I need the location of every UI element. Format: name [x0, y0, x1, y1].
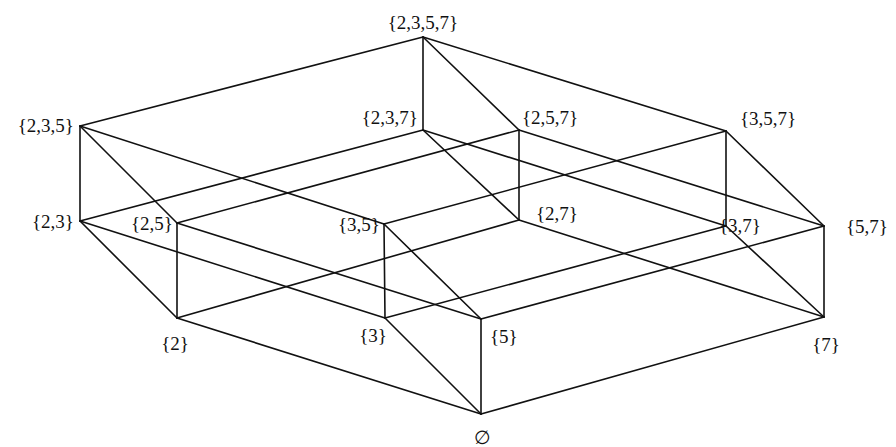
- edge-empty-2: [177, 318, 481, 414]
- edge-empty-7: [481, 317, 824, 414]
- vertex-label-2: {2}: [161, 333, 189, 354]
- vertex-label-7: {7}: [812, 334, 840, 355]
- vertex-label-57: {5,7}: [846, 216, 888, 237]
- vertex-label-2357: {2,3,5,7}: [388, 12, 459, 33]
- vertex-label-23: {2,3}: [32, 211, 74, 232]
- vertex-label-357: {3,5,7}: [740, 108, 796, 129]
- vertex-label-235: {2,3,5}: [18, 115, 74, 136]
- labels-layer: ∅{2}{3}{5}{7}{2,3}{2,5}{2,7}{3,5}{3,7}{5…: [18, 12, 888, 447]
- edge-57-357: [726, 131, 824, 226]
- vertex-label-237: {2,3,7}: [362, 107, 418, 128]
- edge-257-2357: [423, 37, 519, 130]
- vertex-label-27: {2,7}: [536, 203, 578, 224]
- edge-5-57: [481, 226, 824, 319]
- edges-layer: [80, 37, 824, 414]
- vertex-label-empty: ∅: [474, 427, 491, 447]
- vertex-label-5: {5}: [490, 326, 518, 347]
- hasse-diagram: ∅{2}{3}{5}{7}{2,3}{2,5}{2,7}{3,5}{3,7}{5…: [0, 0, 896, 447]
- vertex-label-35: {3,5}: [338, 214, 380, 235]
- vertex-label-37: {3,7}: [719, 215, 761, 236]
- vertex-label-3: {3}: [359, 325, 387, 346]
- vertex-label-25: {2,5}: [131, 213, 173, 234]
- edge-3-23: [80, 221, 385, 318]
- edge-2-23: [80, 221, 177, 318]
- vertex-label-257: {2,5,7}: [522, 107, 578, 128]
- edge-23-237: [80, 130, 423, 221]
- edge-7-27: [519, 220, 824, 317]
- edge-3-35: [384, 224, 385, 318]
